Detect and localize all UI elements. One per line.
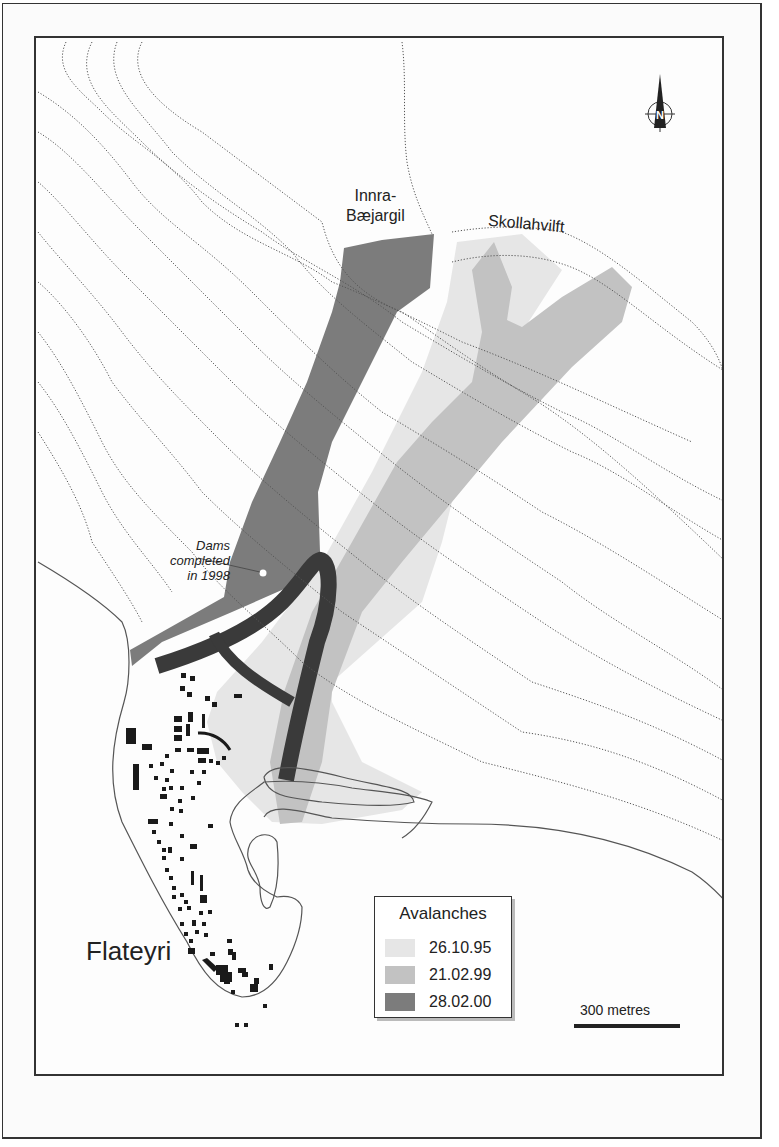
legend-item-1999: 21.02.99 bbox=[385, 964, 491, 986]
gully-label-innra-baejargil: Innra- Bæjargil bbox=[346, 186, 405, 226]
legend-label: 26.10.95 bbox=[429, 939, 491, 957]
legend-swatch bbox=[385, 993, 415, 1011]
dams-annotation-line3: in 1998 bbox=[136, 568, 230, 583]
gully-label-line1: Innra- bbox=[346, 186, 405, 206]
gully-label-line2: Bæjargil bbox=[346, 206, 405, 226]
scale-bar bbox=[574, 1024, 680, 1028]
dams-annotation: Dams completed in 1998 bbox=[136, 538, 230, 583]
legend-item-2000: 28.02.00 bbox=[385, 991, 491, 1013]
dams-annotation-line1: Dams bbox=[136, 538, 230, 553]
north-arrow-letter: N bbox=[656, 109, 664, 121]
legend-item-1995: 26.10.95 bbox=[385, 937, 491, 959]
legend-label: 21.02.99 bbox=[429, 966, 491, 984]
legend-title: Avalanches bbox=[375, 904, 511, 924]
contour-lines bbox=[38, 42, 724, 842]
legend: Avalanches 26.10.95 21.02.99 28.02.00 bbox=[374, 896, 512, 1018]
legend-swatch bbox=[385, 939, 415, 957]
dam-marker-dot bbox=[260, 570, 267, 577]
town-label: Flateyri bbox=[86, 936, 171, 967]
north-arrow-icon bbox=[645, 74, 675, 132]
legend-label: 28.02.00 bbox=[429, 993, 491, 1011]
map-frame: N Innra- Bæjargil Skollahvilft Dams comp… bbox=[34, 36, 724, 1076]
dams-annotation-line2: completed bbox=[136, 553, 230, 568]
legend-swatch bbox=[385, 966, 415, 984]
scale-bar-label: 300 metres bbox=[580, 1002, 650, 1018]
